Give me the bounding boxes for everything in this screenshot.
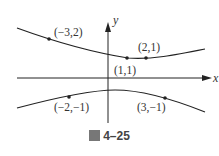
point-dot xyxy=(144,56,148,60)
x-axis-arrow-icon xyxy=(202,75,212,81)
point-dot xyxy=(163,96,167,100)
point-dot xyxy=(67,95,71,99)
point-label: (−2,−1) xyxy=(54,101,89,114)
figure-glyph-icon xyxy=(89,130,100,141)
caption-number: 4–25 xyxy=(103,129,130,143)
figure-caption: 4–25 xyxy=(0,129,219,143)
point-dot xyxy=(125,56,129,60)
y-axis-label: y xyxy=(112,13,119,27)
x-axis-label: x xyxy=(212,71,219,85)
point-label: (3,−1) xyxy=(137,101,166,114)
lower-curve xyxy=(17,90,205,112)
y-axis-arrow-icon xyxy=(105,22,111,32)
point-label: (2,1) xyxy=(138,41,160,54)
point-label: (−3,2) xyxy=(54,26,83,39)
point-label: (1,1) xyxy=(114,64,136,77)
upper-curve xyxy=(17,28,205,58)
point-dot xyxy=(47,37,51,41)
